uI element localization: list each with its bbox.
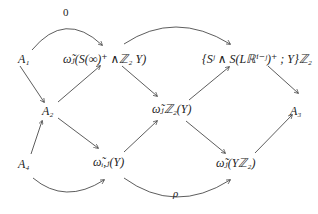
node-a3: A₃ bbox=[290, 105, 302, 117]
node-bracket: {Sʲ ∧ S(Lℝⁱ⁻ʲ)⁺ ; Y}ℤ₂ bbox=[202, 53, 312, 65]
node-omega-fixed: ω̃ⱼ(Yℤ₂) bbox=[216, 157, 255, 169]
node-omega-smash: ω̃ⱼ(S(∞)⁺ ∧ℤ₂ Y) bbox=[63, 53, 146, 65]
node-omega-z2: ω̃ⱼℤ₂(Y) bbox=[152, 103, 191, 115]
node-a1: A₁ bbox=[18, 53, 30, 65]
node-a4: A₄ bbox=[18, 158, 30, 170]
node-a2: A₂ bbox=[42, 105, 54, 117]
edge-label-zero: 0 bbox=[63, 6, 69, 18]
edge-label-rho: ρ bbox=[173, 187, 178, 199]
node-omega-ij: ω̃ᵢ,ⱼ(Y) bbox=[93, 156, 124, 168]
